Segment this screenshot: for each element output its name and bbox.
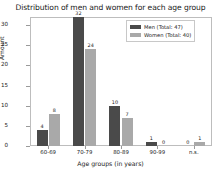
bar-value-label: 24 — [82, 43, 99, 48]
x-tick-label: 90-99 — [137, 149, 177, 155]
legend-item-men: Men (Total: 47) — [130, 23, 191, 31]
legend-label-men: Men (Total: 47) — [144, 24, 183, 30]
y-tick-label: 30 — [0, 22, 8, 28]
bar-women-70-79 — [85, 49, 96, 146]
legend-swatch-women-icon — [130, 33, 141, 38]
legend-item-women: Women (Total: 40) — [130, 31, 191, 39]
x-tick-label: 70-79 — [65, 149, 105, 155]
bar-men-70-79 — [73, 17, 84, 146]
bar-women-60-69 — [49, 114, 60, 146]
bar-value-label: 32 — [70, 11, 87, 16]
chart-title: Distribution of men and women for each a… — [0, 3, 221, 12]
x-tick-label: 80-89 — [101, 149, 141, 155]
y-tick-label: 25 — [0, 42, 8, 48]
bar-women-n.s. — [194, 142, 205, 146]
bar-chart-figure: Distribution of men and women for each a… — [0, 0, 221, 180]
bar-value-label: 1 — [191, 136, 208, 141]
y-tick-label: 5 — [0, 123, 8, 129]
bar-value-label: 8 — [46, 108, 63, 113]
y-tick-label: 0 — [0, 143, 8, 149]
bar-value-label: 10 — [106, 100, 123, 105]
legend-swatch-men-icon — [130, 25, 141, 30]
bar-women-80-89 — [122, 118, 133, 146]
legend-label-women: Women (Total: 40) — [144, 32, 191, 38]
y-tick-label: 15 — [0, 83, 8, 89]
x-tick-mark — [85, 146, 86, 149]
x-tick-mark — [194, 146, 195, 149]
chart-legend: Men (Total: 47) Women (Total: 40) — [126, 20, 195, 42]
x-axis-title: Age groups (in years) — [0, 160, 221, 167]
y-tick-label: 10 — [0, 103, 8, 109]
y-tick-mark — [26, 146, 30, 147]
bar-value-label: 7 — [119, 112, 136, 117]
x-tick-mark — [157, 146, 158, 149]
x-tick-label: n.s. — [174, 149, 214, 155]
x-tick-label: 60-69 — [28, 149, 68, 155]
y-axis-title: Amount — [0, 36, 5, 60]
x-tick-mark — [48, 146, 49, 149]
y-tick-label: 20 — [0, 62, 8, 68]
bar-men-60-69 — [37, 130, 48, 146]
x-tick-mark — [121, 146, 122, 149]
bar-value-label: 0 — [155, 140, 172, 145]
